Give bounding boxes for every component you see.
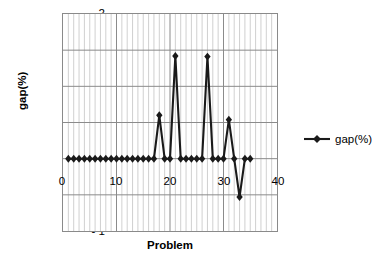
x-tick-label: 20 [160, 176, 180, 188]
data-series-gap [63, 14, 277, 231]
x-tick-label: 40 [268, 176, 288, 188]
x-tick-label: 0 [52, 176, 72, 188]
legend-label-gap: gap(%) [335, 133, 372, 145]
plot-area [62, 13, 278, 232]
x-tick-label: 30 [214, 176, 234, 188]
y-axis-title: gap(%) [16, 94, 28, 110]
x-tick-label: 10 [106, 176, 126, 188]
chart-container: 2 1.5 1 0.5 0 - 0.5 - 1 gap(%) [0, 0, 388, 268]
legend: gap(%) [303, 133, 372, 145]
legend-marker-icon [303, 133, 331, 145]
x-axis-title: Problem [62, 239, 278, 251]
